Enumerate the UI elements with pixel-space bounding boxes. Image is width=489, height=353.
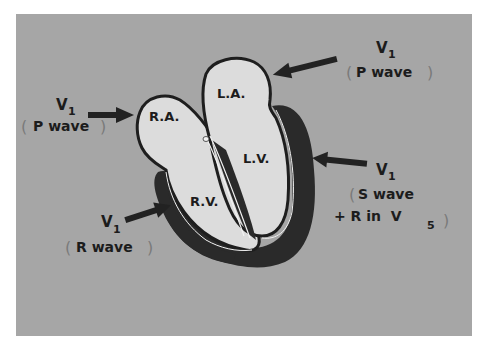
label-la: L.A. bbox=[217, 86, 245, 101]
wave-label: R wave bbox=[76, 239, 133, 255]
lead-subscript: 1 bbox=[68, 105, 76, 118]
annotation-rv: V 1 ( R wave ) bbox=[65, 213, 153, 257]
paren-open: ( bbox=[349, 185, 355, 204]
lead-v: V bbox=[376, 39, 388, 57]
label-lv: L.V. bbox=[243, 151, 270, 166]
lead-subscript: 1 bbox=[388, 170, 396, 183]
paren-close: ) bbox=[100, 117, 106, 136]
lead-subscript: 1 bbox=[388, 48, 396, 61]
wave-label-line1: S wave bbox=[358, 186, 414, 202]
wave-label: P wave bbox=[356, 64, 412, 80]
lead-v: V bbox=[376, 161, 388, 179]
paren-open: ( bbox=[346, 63, 352, 82]
arrow-la-icon bbox=[271, 51, 339, 82]
paren-close: ) bbox=[427, 63, 433, 82]
annotation-lv: V 1 ( S wave + R in V 5 ) bbox=[334, 161, 449, 232]
annotation-la: V 1 ( P wave ) bbox=[346, 39, 433, 82]
av-node bbox=[203, 137, 209, 142]
paren-open: ( bbox=[65, 238, 71, 257]
lead-v: V bbox=[101, 213, 113, 231]
wave-label-line2: + R in V bbox=[334, 208, 402, 224]
lead-subscript: 1 bbox=[113, 223, 121, 236]
arrow-lv-icon bbox=[311, 150, 367, 172]
heart-diagram: R.A. L.A. L.V. R.V. V 1 ( P wave ) bbox=[0, 0, 489, 353]
wave-label: P wave bbox=[33, 118, 89, 134]
lead-subscript-v5: 5 bbox=[427, 219, 435, 232]
paren-close: ) bbox=[443, 211, 449, 230]
paren-close: ) bbox=[147, 238, 153, 257]
paren-open: ( bbox=[21, 117, 27, 136]
label-ra: R.A. bbox=[149, 109, 179, 124]
arrow-ra-icon bbox=[88, 107, 134, 123]
lead-v: V bbox=[56, 96, 68, 114]
label-rv: R.V. bbox=[190, 194, 219, 209]
